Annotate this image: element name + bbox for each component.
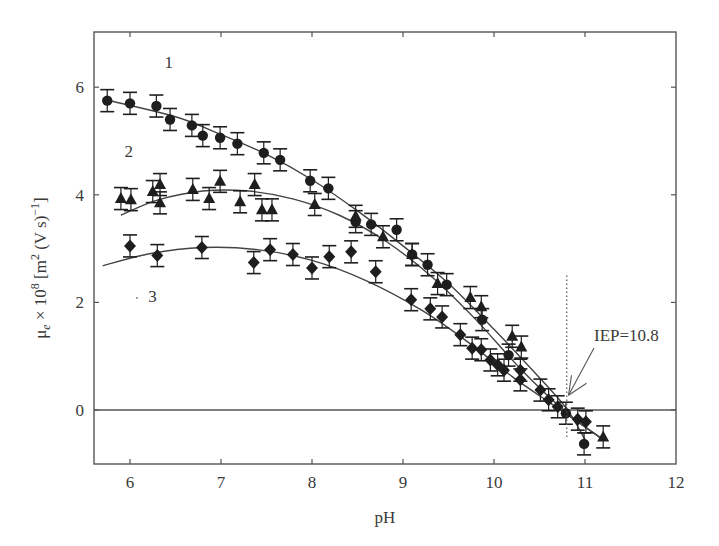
x-tick-label: 7 [217, 473, 226, 492]
series-label-2: 2 [125, 142, 134, 161]
marker-triangle [124, 189, 138, 211]
x-tick-label: 6 [126, 473, 135, 492]
y-tick-label: 0 [76, 401, 85, 420]
marker-circle [257, 142, 271, 164]
marker-circle [123, 92, 137, 114]
x-tick-label: 10 [486, 473, 503, 492]
marker-circle [213, 127, 227, 149]
marker-circle [230, 133, 244, 155]
marker-circle [577, 433, 591, 455]
marker-triangle [186, 178, 200, 200]
marker-circle [196, 125, 210, 147]
y-tick-label: 2 [76, 293, 85, 312]
marker-diamond [263, 239, 277, 261]
marker-diamond [150, 245, 164, 267]
marker-diamond [369, 261, 383, 283]
marker-triangle [463, 287, 477, 309]
iep-arrow-shaft [569, 348, 594, 395]
marker-diamond [286, 244, 300, 266]
marker-triangle [474, 296, 488, 318]
x-tick-label: 11 [577, 473, 593, 492]
x-tick-label: 8 [308, 473, 317, 492]
marker-triangle [349, 205, 363, 227]
marker-diamond [453, 324, 467, 346]
series-label-3: 3 [148, 287, 157, 306]
iep-label: IEP=10.8 [594, 326, 659, 345]
series-label-1: 1 [165, 53, 174, 72]
y-axis-title: μe × 108 [m2 (V s)−1] [28, 197, 53, 339]
marker-circle [303, 170, 317, 192]
marker-circle [149, 95, 163, 117]
fit-curves [103, 99, 604, 440]
axes: 67891011120246 [76, 32, 685, 492]
marker-triangle [213, 170, 227, 192]
marker-circle [273, 149, 287, 171]
x-axis-title: pH [375, 508, 396, 527]
marker-diamond [513, 369, 527, 391]
marker-circle [163, 108, 177, 130]
marker-diamond [344, 241, 358, 263]
x-tick-label: 12 [668, 473, 685, 492]
marker-diamond [195, 237, 209, 259]
marker-triangle [114, 188, 128, 210]
marker-diamond [123, 235, 137, 257]
x-tick-label: 9 [399, 473, 408, 492]
y-tick-label: 4 [76, 186, 85, 205]
fit-curve-1 [103, 99, 585, 440]
fit-curve-3 [103, 247, 604, 439]
marker-diamond [247, 252, 261, 274]
marker-triangle [233, 191, 247, 213]
marker-diamond [423, 298, 437, 320]
marker-diamond [435, 306, 449, 328]
ph-mobility-chart: 67891011120246 123IEP=10.8 pH μe × 108 [… [0, 0, 719, 546]
marker-circle [100, 90, 114, 112]
marker-triangle [255, 199, 269, 221]
marker-diamond [305, 257, 319, 279]
marker-circle [321, 177, 335, 199]
y-tick-label: 6 [76, 78, 85, 97]
speck [136, 297, 138, 299]
data-markers [100, 90, 610, 455]
marker-triangle [265, 199, 279, 221]
